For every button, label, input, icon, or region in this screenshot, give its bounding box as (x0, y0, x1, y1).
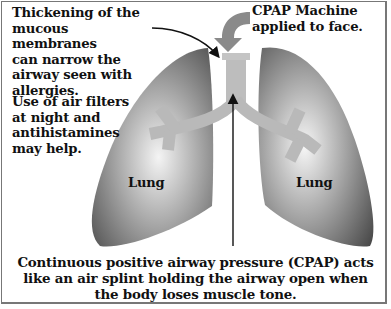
cpap-machine-label: CPAP Machine applied to face. (252, 3, 382, 34)
mucous-membrane-note: Thickening of the mucous membranes can n… (12, 5, 152, 98)
cpap-caption: Continuous positive airway pressure (CPA… (0, 254, 391, 302)
trachea (226, 53, 246, 103)
cpap-arrow-icon (214, 12, 250, 52)
air-filter-note: Use of air filters at night and antihist… (12, 94, 152, 156)
right-lung-label: Lung (296, 175, 332, 191)
left-lung-label: Lung (128, 175, 164, 191)
